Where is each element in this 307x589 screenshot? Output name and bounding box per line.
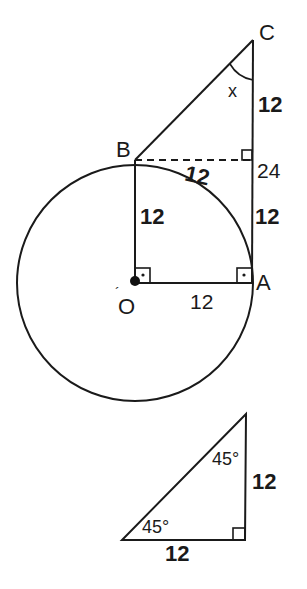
point-label-C: C xyxy=(259,20,275,45)
right-angle-mark-triangle xyxy=(233,528,245,540)
length-label-OB: 12 xyxy=(140,204,164,229)
point-label-O: O xyxy=(118,294,135,319)
right-angle-mark-D xyxy=(242,150,252,160)
side-label-bottom: 12 xyxy=(165,541,189,566)
length-label-OA: 12 xyxy=(190,290,213,313)
right-angle-dot-A xyxy=(242,273,245,276)
length-label-total-24: 24 xyxy=(257,159,281,182)
angle-arc-x xyxy=(230,64,253,80)
prime-mark-O: ´ xyxy=(115,285,120,301)
center-point-O xyxy=(130,276,140,286)
length-label-CD: 12 xyxy=(258,92,282,117)
point-label-B: B xyxy=(116,137,131,162)
angle-label-top-45: 45° xyxy=(212,449,239,469)
helper-triangle: 45° 45° 12 12 xyxy=(122,414,276,566)
point-label-A: A xyxy=(256,270,271,295)
right-angle-dot-O xyxy=(141,273,144,276)
side-label-right: 12 xyxy=(252,469,276,494)
segment-CA xyxy=(252,40,253,283)
angle-label-x: x xyxy=(228,81,237,101)
length-label-DA: 12 xyxy=(255,204,279,229)
angle-label-left-45: 45° xyxy=(142,517,169,537)
length-label-BD: 12 xyxy=(183,161,212,191)
triangle-shape xyxy=(122,414,246,540)
circle-figure: C B A O ´ x 12 24 12 12 12 12 xyxy=(17,20,282,401)
